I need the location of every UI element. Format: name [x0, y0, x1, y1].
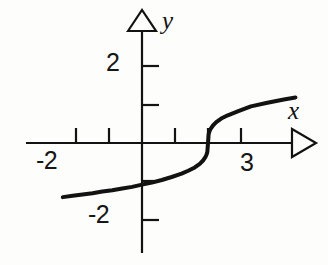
- graph-figure: y x 2 -2 -2 3: [0, 0, 328, 265]
- x-axis-arrowhead-icon: [292, 129, 316, 157]
- y-tick-label-neg2: -2: [88, 202, 109, 227]
- x-axis-label: x: [288, 98, 299, 123]
- y-axis-label: y: [162, 8, 173, 33]
- x-tick-label-neg2: -2: [36, 148, 57, 173]
- coordinate-plot-svg: [0, 0, 328, 265]
- x-tick-label-3: 3: [240, 150, 253, 175]
- function-curve: [63, 97, 296, 197]
- y-axis-arrowhead-icon: [128, 10, 156, 31]
- x-axis-ticks: [76, 128, 241, 143]
- y-tick-label-2: 2: [106, 50, 119, 75]
